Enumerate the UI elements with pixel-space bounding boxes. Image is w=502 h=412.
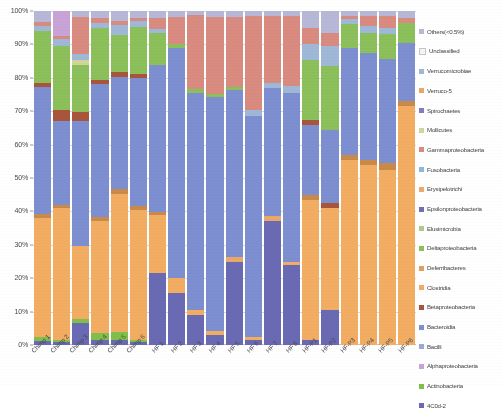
bar-segment bbox=[379, 170, 396, 345]
x-label-slot: Chimp 1 bbox=[34, 345, 51, 385]
bar-column[interactable] bbox=[398, 11, 415, 345]
bar-column[interactable] bbox=[34, 11, 51, 345]
legend-item[interactable]: Betaproteobacteria bbox=[419, 298, 502, 318]
x-label-slot: HF 8 bbox=[283, 345, 300, 385]
bar-segment bbox=[91, 11, 108, 18]
legend-swatch-icon bbox=[419, 403, 424, 408]
bar-column[interactable] bbox=[379, 11, 396, 345]
bar-column[interactable] bbox=[206, 11, 223, 345]
bar-segment bbox=[379, 59, 396, 163]
legend-label: Deferribacteres bbox=[427, 265, 466, 271]
bar-column[interactable] bbox=[91, 11, 108, 345]
x-label-slot: HF 2 bbox=[168, 345, 185, 385]
y-tick-label: 40% bbox=[14, 207, 28, 215]
bar-column[interactable] bbox=[149, 11, 166, 345]
x-label-slot: Chimp 3 bbox=[72, 345, 89, 385]
legend-label: Spirochaetes bbox=[427, 108, 460, 114]
bar-segment bbox=[379, 28, 396, 35]
legend-item[interactable]: Alphaproteobacteria bbox=[419, 357, 502, 377]
x-label-slot: Chimp 6 bbox=[130, 345, 147, 385]
legend-item[interactable]: Mollicutes bbox=[419, 120, 502, 140]
bar-segment bbox=[341, 24, 358, 47]
legend-swatch-icon bbox=[419, 285, 424, 290]
legend-label: Clostridia bbox=[427, 285, 450, 291]
bar-segment bbox=[34, 11, 51, 22]
bar-column[interactable] bbox=[360, 11, 377, 345]
bar-segment bbox=[360, 26, 377, 33]
bar-segment bbox=[398, 11, 415, 18]
y-tick-label: 100% bbox=[11, 7, 28, 15]
bar-column[interactable] bbox=[264, 11, 281, 345]
bar-column[interactable] bbox=[245, 11, 262, 345]
legend-item[interactable]: Verruco-5 bbox=[419, 81, 502, 101]
bar-segment bbox=[91, 221, 108, 333]
bar-segment bbox=[341, 48, 358, 155]
legend-item[interactable]: Gammaproteobacteria bbox=[419, 140, 502, 160]
bar-segment bbox=[321, 46, 338, 66]
bar-column[interactable] bbox=[72, 11, 89, 345]
legend-item[interactable]: Bacilli bbox=[419, 337, 502, 357]
bar-segment bbox=[283, 93, 300, 262]
x-label-slot: HF-P2 bbox=[321, 345, 338, 385]
legend-swatch-icon bbox=[419, 384, 424, 389]
bar-segment bbox=[72, 54, 89, 61]
bar-segment bbox=[379, 163, 396, 170]
legend-swatch-icon bbox=[419, 48, 426, 55]
bar-column[interactable] bbox=[187, 11, 204, 345]
bar-column[interactable] bbox=[168, 11, 185, 345]
bar-segment bbox=[53, 46, 70, 109]
legend-item[interactable]: Deferribacteres bbox=[419, 258, 502, 278]
x-label-slot: HF-P6 bbox=[398, 345, 415, 385]
legend-item[interactable]: Actinobacteria bbox=[419, 376, 502, 396]
bar-segment bbox=[34, 218, 51, 337]
legend-label: 4C0d-2 bbox=[427, 403, 446, 409]
bar-column[interactable] bbox=[53, 11, 70, 345]
legend-label: Mollicutes bbox=[427, 127, 452, 133]
legend-label: Unclassified bbox=[429, 48, 459, 54]
legend-swatch-icon bbox=[419, 69, 424, 74]
bar-segment bbox=[130, 78, 147, 207]
legend-item[interactable]: 4C0d-2 bbox=[419, 396, 502, 412]
bar-column[interactable] bbox=[321, 11, 338, 345]
legend-item[interactable]: Epsilonproteobacteria bbox=[419, 199, 502, 219]
bar-column[interactable] bbox=[226, 11, 243, 345]
legend-item[interactable]: Deltaproteobacteria bbox=[419, 239, 502, 259]
legend-swatch-icon bbox=[419, 29, 424, 34]
legend-item[interactable]: Fusobacteria bbox=[419, 160, 502, 180]
legend-swatch-icon bbox=[419, 88, 424, 93]
legend-item[interactable]: Others(<0.5%) bbox=[419, 22, 502, 42]
bar-segment bbox=[206, 17, 223, 94]
legend-item[interactable]: Unclassified bbox=[419, 42, 502, 62]
bar-segment bbox=[187, 15, 204, 88]
legend-item[interactable]: Erysipelotrichi bbox=[419, 180, 502, 200]
bar-segment bbox=[321, 33, 338, 46]
bar-segment bbox=[341, 160, 358, 345]
bar-segment bbox=[111, 77, 128, 189]
y-tick-label: 90% bbox=[14, 40, 28, 48]
legend-swatch-icon bbox=[419, 305, 424, 310]
legend-item[interactable]: Elusimicrobia bbox=[419, 219, 502, 239]
bar-column[interactable] bbox=[111, 11, 128, 345]
legend-label: Fusobacteria bbox=[427, 167, 460, 173]
bar-segment bbox=[398, 106, 415, 345]
y-tick-label: 80% bbox=[14, 74, 28, 82]
legend-item[interactable]: Spirochaetes bbox=[419, 101, 502, 121]
x-label-slot: HF 6 bbox=[245, 345, 262, 385]
legend-swatch-icon bbox=[419, 187, 424, 192]
bar-segment bbox=[283, 16, 300, 86]
bar-segment bbox=[111, 194, 128, 333]
bar-column[interactable] bbox=[302, 11, 319, 345]
bar-segment bbox=[398, 43, 415, 101]
bar-column[interactable] bbox=[130, 11, 147, 345]
legend-item[interactable]: Bacteroidia bbox=[419, 317, 502, 337]
bar-column[interactable] bbox=[283, 11, 300, 345]
legend: Others(<0.5%)UnclassifiedVerrucomicrobia… bbox=[419, 22, 502, 412]
legend-item[interactable]: Verrucomicrobiae bbox=[419, 61, 502, 81]
bar-segment bbox=[130, 11, 147, 18]
legend-label: Betaproteobacteria bbox=[427, 304, 475, 310]
y-tick-label: 0% bbox=[18, 341, 28, 349]
y-tick-label: 70% bbox=[14, 107, 28, 115]
legend-item[interactable]: Clostridia bbox=[419, 278, 502, 298]
bar-column[interactable] bbox=[341, 11, 358, 345]
y-tick-label: 60% bbox=[14, 141, 28, 149]
